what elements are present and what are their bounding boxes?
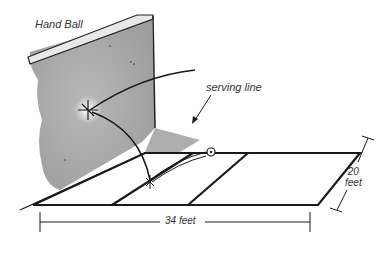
diagram-title: Hand Ball xyxy=(35,18,83,30)
serving-line-arrow xyxy=(192,95,211,124)
ball xyxy=(207,148,215,156)
court-width-value: 20 xyxy=(345,166,362,177)
court-length-label: 34 feet xyxy=(162,215,199,226)
serving-line-label: serving line xyxy=(206,81,262,93)
court-width-unit: feet xyxy=(345,177,362,188)
court-width-label: 20 feet xyxy=(345,166,362,188)
handball-court-diagram: Hand Ball serving line 34 feet 20 feet xyxy=(0,0,386,253)
